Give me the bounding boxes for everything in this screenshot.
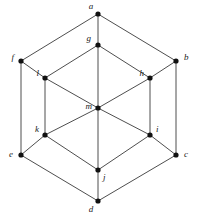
- graph-vertex-f: [18, 58, 23, 63]
- graph-svg: abcdefghijklm: [0, 0, 197, 220]
- graph-vertex-label-i: i: [156, 124, 159, 134]
- graph-edge-f-l: [21, 61, 45, 78]
- graph-vertex-g: [95, 42, 100, 47]
- vertices-layer: [18, 11, 178, 203]
- graph-vertex-l: [42, 75, 47, 80]
- graph-edge-a-b: [98, 14, 176, 61]
- graph-edge-m-k: [45, 108, 98, 135]
- graph-vertex-label-b: b: [184, 52, 189, 62]
- graph-edge-c-i: [150, 135, 176, 155]
- graph-vertex-label-c: c: [184, 149, 188, 159]
- graph-vertex-b: [173, 58, 178, 63]
- graph-edge-g-l: [45, 45, 98, 78]
- graph-vertex-label-f: f: [11, 52, 15, 62]
- graph-vertex-label-m: m: [86, 101, 93, 111]
- graph-vertex-c: [173, 152, 178, 157]
- graph-edge-k-j: [45, 135, 98, 170]
- graph-edge-i-j: [98, 135, 150, 170]
- graph-edge-m-i: [98, 108, 150, 135]
- graph-vertex-label-k: k: [35, 124, 40, 134]
- graph-vertex-label-e: e: [9, 149, 13, 159]
- graph-vertex-label-a: a: [89, 1, 94, 11]
- graph-vertex-label-j: j: [102, 172, 106, 182]
- graph-edge-e-k: [21, 135, 45, 155]
- graph-vertex-h: [147, 75, 152, 80]
- graph-vertex-label-l: l: [36, 68, 39, 78]
- graph-vertex-i: [147, 132, 152, 137]
- graph-vertex-m: [95, 105, 100, 110]
- graph-diagram-canvas: abcdefghijklm: [0, 0, 197, 220]
- graph-edge-b-h: [150, 61, 176, 78]
- graph-vertex-label-h: h: [140, 68, 145, 78]
- graph-vertex-e: [18, 152, 23, 157]
- graph-vertex-label-d: d: [89, 204, 94, 214]
- graph-vertex-a: [95, 11, 100, 16]
- graph-vertex-j: [95, 167, 100, 172]
- graph-edge-h-m: [98, 78, 150, 108]
- graph-vertex-k: [42, 132, 47, 137]
- graph-vertex-label-g: g: [87, 33, 92, 43]
- graph-vertex-d: [95, 198, 100, 203]
